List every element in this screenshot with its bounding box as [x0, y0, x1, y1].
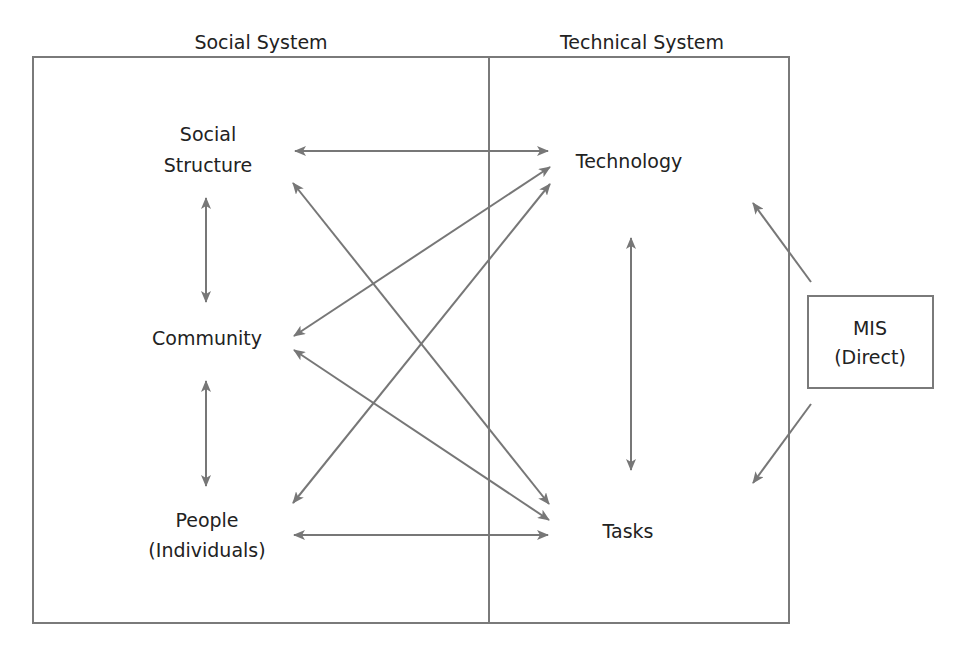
arrow-mis-technology	[753, 203, 811, 282]
node-community: Community	[152, 327, 262, 349]
node-social-structure-line1: Social	[180, 123, 236, 145]
arrows	[206, 151, 811, 535]
figure-caption-clipped	[0, 0, 967, 6]
node-social-structure-line2: Structure	[164, 154, 252, 176]
header-technical-system: Technical System	[559, 31, 724, 53]
node-mis-line1: MIS	[853, 317, 887, 339]
header-social-system: Social System	[194, 31, 327, 53]
node-people-line1: People	[175, 509, 238, 531]
arrow-community-tasks	[294, 350, 549, 520]
arrow-mis-tasks	[753, 404, 811, 483]
node-people-line2: (Individuals)	[148, 539, 265, 561]
system-frame	[33, 57, 789, 623]
arrow-community-technology	[294, 167, 550, 336]
sociotechnical-diagram: Social System Technical System Social St…	[0, 0, 967, 659]
node-technology: Technology	[575, 150, 682, 172]
mis-box	[808, 296, 933, 388]
node-tasks: Tasks	[602, 520, 654, 542]
node-mis-line2: (Direct)	[834, 346, 906, 368]
